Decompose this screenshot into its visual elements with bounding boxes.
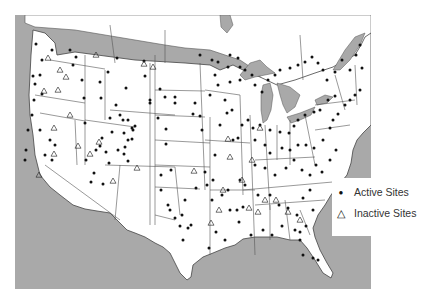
active-site-marker (194, 102, 197, 105)
legend-label-inactive: Inactive Sites (354, 207, 416, 219)
active-site-marker (349, 99, 352, 102)
active-site-marker (312, 209, 315, 212)
active-site-marker (244, 184, 247, 187)
active-site-marker (237, 137, 240, 140)
active-site-marker (149, 102, 152, 105)
active-site-marker (288, 132, 291, 135)
active-site-marker (293, 125, 296, 128)
active-site-marker (322, 139, 325, 142)
active-site-marker (254, 164, 257, 167)
active-site-marker (247, 119, 250, 122)
active-site-marker (99, 81, 102, 84)
active-site-marker (33, 99, 36, 102)
active-site-marker (209, 94, 212, 97)
active-site-marker (337, 113, 340, 116)
active-site-marker (25, 149, 28, 152)
active-site-marker (355, 54, 358, 57)
active-site-marker (269, 152, 272, 155)
active-site-marker (95, 149, 98, 152)
active-site-marker (285, 167, 288, 170)
active-site-marker (123, 132, 126, 135)
active-site-marker (124, 146, 127, 149)
active-site-marker (174, 102, 177, 105)
active-site-marker (329, 127, 332, 130)
active-site-marker (232, 139, 235, 142)
active-site-marker (204, 171, 207, 174)
active-site-marker (184, 199, 187, 202)
active-site-marker (224, 239, 227, 242)
active-site-marker (242, 206, 245, 209)
active-site-marker (105, 151, 108, 154)
active-site-marker (181, 214, 184, 217)
open-triangle-icon: △ (332, 207, 350, 220)
active-site-marker (195, 187, 198, 190)
active-site-marker (254, 84, 257, 87)
active-site-marker (334, 95, 337, 98)
active-site-marker (83, 97, 86, 100)
active-site-marker (85, 159, 88, 162)
active-site-marker (304, 61, 307, 64)
active-site-marker (224, 99, 227, 102)
active-site-marker (174, 217, 177, 220)
active-site-marker (212, 179, 215, 182)
active-site-marker (311, 56, 314, 59)
active-site-marker (32, 75, 35, 78)
active-site-marker (99, 145, 102, 148)
active-site-marker (144, 75, 147, 78)
active-site-marker (299, 231, 302, 234)
active-site-marker (127, 160, 130, 163)
active-site-marker (309, 174, 312, 177)
active-site-marker (239, 66, 242, 69)
active-site-marker (109, 117, 112, 120)
active-site-marker (274, 174, 277, 177)
active-site-marker (102, 183, 105, 186)
active-site-marker (160, 174, 163, 177)
active-site-marker (214, 74, 217, 77)
active-site-marker (108, 162, 111, 165)
active-site-marker (359, 44, 362, 47)
active-site-marker (160, 189, 163, 192)
active-site-marker (261, 91, 264, 94)
active-site-marker (149, 99, 152, 102)
active-site-marker (229, 209, 232, 212)
active-site-marker (236, 209, 239, 212)
active-site-marker (179, 225, 182, 228)
active-site-marker (317, 259, 320, 262)
active-site-marker (296, 214, 299, 217)
active-site-marker (101, 137, 104, 140)
active-site-marker (215, 231, 218, 234)
active-site-marker (199, 54, 202, 57)
active-site-marker (279, 69, 282, 72)
active-site-marker (279, 131, 282, 134)
active-site-marker (41, 59, 44, 62)
active-site-marker (271, 234, 274, 237)
active-site-marker (219, 124, 222, 127)
active-site-marker (359, 89, 362, 92)
active-site-marker (229, 81, 232, 84)
active-site-marker (115, 104, 118, 107)
active-site-marker (304, 114, 307, 117)
active-site-marker (334, 71, 337, 74)
active-site-marker (190, 224, 193, 227)
active-site-marker (269, 129, 272, 132)
active-site-marker (278, 204, 281, 207)
active-site-marker (241, 124, 244, 127)
active-site-marker (217, 61, 220, 64)
active-site-marker (165, 143, 168, 146)
active-site-marker (123, 153, 126, 156)
active-site-marker (134, 125, 137, 128)
active-site-marker (274, 74, 277, 77)
active-site-marker (119, 114, 122, 117)
active-site-marker (174, 96, 177, 99)
active-site-marker (221, 194, 224, 197)
active-site-marker (27, 129, 30, 132)
map-legend: ● Active Sites △ Inactive Sites (332, 178, 437, 236)
active-site-marker (116, 57, 119, 60)
active-site-marker (341, 59, 344, 62)
active-site-marker (317, 62, 320, 65)
active-site-marker (117, 149, 120, 152)
active-site-marker (81, 79, 84, 82)
active-site-marker (75, 56, 78, 59)
active-site-marker (208, 247, 211, 250)
active-site-marker (35, 43, 38, 46)
